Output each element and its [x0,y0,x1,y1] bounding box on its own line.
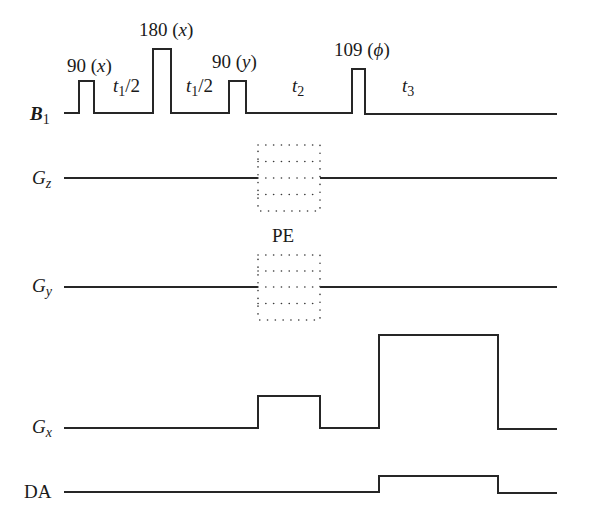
b1-row-label: B1 [29,103,50,127]
da-row-label: DA [24,481,52,502]
pulse-label-90x: 90 (x) [67,55,112,77]
delay-label-t3: t3 [402,75,414,99]
delay-label-t1-half-a: t1/2 [113,75,140,99]
pulse-label-90y: 90 (y) [212,51,257,73]
pulse-label-109phi: 109 (ϕ) [334,39,390,61]
da-row: DA [24,476,557,502]
phase-encode-label: PE [272,225,294,246]
gx-waveform [64,335,557,429]
gz-row: Gz [32,145,557,211]
gz-row-label: Gz [32,167,52,191]
b1-row: B1 90 (x) 180 (x) 90 (y) 109 (ϕ) t1/2 t1… [29,19,557,127]
gx-row-label: Gx [32,416,53,440]
gy-row-label: Gy [32,275,53,299]
gz-phase-encode-table [258,145,320,211]
delay-label-t2: t2 [292,75,304,99]
pulse-sequence-diagram: B1 90 (x) 180 (x) 90 (y) 109 (ϕ) t1/2 t1… [0,0,597,529]
pulse-label-180x: 180 (x) [139,19,193,41]
gy-phase-encode-table [258,255,320,320]
da-waveform [64,476,557,493]
gx-row: Gx [32,335,557,440]
delay-label-t1-half-b: t1/2 [186,75,213,99]
gy-row: Gy [32,255,557,320]
